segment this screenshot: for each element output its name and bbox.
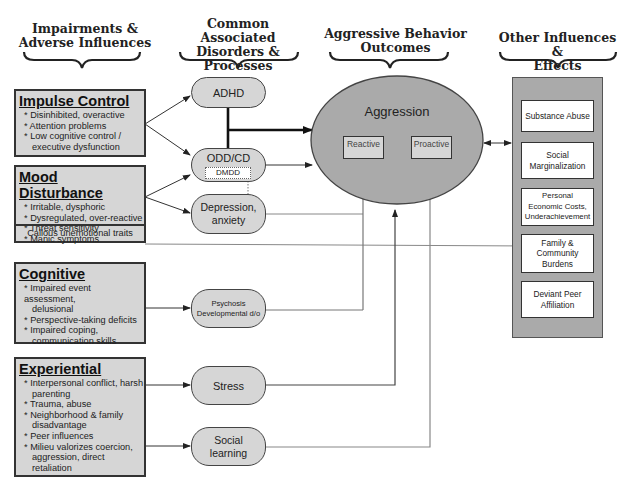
list-item: delusional xyxy=(24,304,144,315)
developmental-label: Developmental d/o xyxy=(197,309,260,319)
list-item: * Attention problems xyxy=(24,121,144,132)
effect-label: Deviant Peer xyxy=(534,289,582,300)
effect-label: Burdens xyxy=(542,259,573,270)
brace-icon xyxy=(24,52,616,68)
list-item: * Impaired event assessment, xyxy=(24,283,144,304)
list-item: * Milieu valorizes coercion, xyxy=(24,442,144,453)
effect-label: Community xyxy=(537,248,579,259)
list-item: communication skills xyxy=(24,336,144,347)
dmdd-label: DMDD xyxy=(205,167,251,179)
effect-label: Social xyxy=(546,150,569,161)
stress-node: Stress xyxy=(191,366,266,405)
mood-disturbance-title: Mood Disturbance xyxy=(19,169,144,201)
list-item: * Dysregulated, over-reactive xyxy=(24,213,144,224)
list-item-cont: delusional xyxy=(24,304,144,315)
learning-label: learning xyxy=(210,447,247,460)
list-item-cont: communication skills xyxy=(24,336,144,347)
proactive-box: Proactive xyxy=(411,136,452,159)
psychosis-node: Psychosis Developmental d/o xyxy=(191,289,266,328)
list-item: * Trauma, abuse xyxy=(24,399,144,410)
effect-label: Personal xyxy=(542,191,573,202)
list-item: * Neighborhood & family xyxy=(24,410,144,421)
list-item: * Impaired coping, xyxy=(24,325,144,336)
experiential-box: Experiential * Interpersonal conflict, h… xyxy=(14,357,146,477)
effect-label: Substance Abuse xyxy=(525,111,590,122)
list-item: * Irritable, dysphoric xyxy=(24,202,144,213)
effect-label: Underachievement xyxy=(525,212,590,223)
adhd-label: ADHD xyxy=(213,87,244,99)
list-item: * Peer influences xyxy=(24,431,144,442)
list-item-cont: parenting xyxy=(24,389,144,400)
list-item-cont: executive dysfunction xyxy=(24,142,144,153)
list-item: * Disinhibited, overactive xyxy=(24,110,144,121)
odd-cd-label: ODD/CD xyxy=(207,152,250,164)
effect-economic-costs: Personal Economic Costs, Underachievemen… xyxy=(521,188,594,226)
list-item: * Low cognitive control / xyxy=(24,131,144,142)
experiential-title: Experiential xyxy=(19,361,144,377)
list-item: * Interpersonal conflict, harsh xyxy=(24,378,144,389)
effects-panel: Substance Abuse Social Marginalization P… xyxy=(512,77,603,338)
impulse-control-title: Impulse Control xyxy=(19,93,144,109)
adhd-node: ADHD xyxy=(191,77,266,108)
depression-label: Depression, xyxy=(200,201,256,214)
list-item: executive dysfunction xyxy=(24,142,144,153)
social-learning-node: Social learning xyxy=(191,427,266,466)
list-item: aggression, direct retaliation xyxy=(24,452,144,473)
effect-deviant-peer: Deviant Peer Affiliation xyxy=(521,281,594,318)
cognitive-title: Cognitive xyxy=(19,266,144,282)
effect-label: Economic Costs, xyxy=(528,202,587,213)
impulse-control-box: Impulse Control * Disinhibited, overacti… xyxy=(14,89,146,157)
depression-anxiety-node: Depression, anxiety xyxy=(191,194,266,234)
callous-unemotional-traits: Callous unemotional traits xyxy=(16,224,144,241)
anxiety-label: anxiety xyxy=(212,214,245,227)
list-item-cont: disadvantage xyxy=(24,420,144,431)
reactive-box: Reactive xyxy=(343,136,384,159)
effect-social-marginalization: Social Marginalization xyxy=(521,142,594,179)
aggression-title: Aggression xyxy=(340,104,454,119)
list-item: disadvantage xyxy=(24,420,144,431)
stress-label: Stress xyxy=(213,380,244,392)
odd-cd-node: ODD/CD DMDD xyxy=(191,148,266,182)
social-label: Social xyxy=(214,434,243,447)
list-item: * Perspective-taking deficits xyxy=(24,315,144,326)
effect-label: Family & xyxy=(541,238,573,249)
effect-label: Marginalization xyxy=(530,161,586,172)
effect-label: Affiliation xyxy=(541,300,575,311)
aggression-ellipse xyxy=(311,76,483,204)
psychosis-label: Psychosis xyxy=(211,299,245,309)
effect-family-community: Family & Community Burdens xyxy=(521,234,594,273)
cognitive-box: Cognitive * Impaired event assessment, d… xyxy=(14,262,146,344)
effect-substance-abuse: Substance Abuse xyxy=(521,100,594,132)
list-item-cont: aggression, direct retaliation xyxy=(24,452,144,473)
mood-disturbance-box: Mood Disturbance * Irritable, dysphoric … xyxy=(14,165,146,243)
list-item: parenting xyxy=(24,389,144,400)
